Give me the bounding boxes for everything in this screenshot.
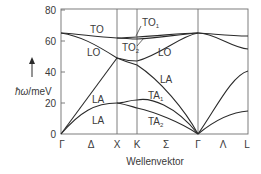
- label-to1: TO1: [142, 17, 160, 29]
- label-lo-left: LO: [87, 47, 101, 58]
- label-ta1: TA1: [148, 90, 164, 102]
- label-la-right: LA: [160, 74, 173, 85]
- x-tick-delta: Δ: [88, 139, 95, 150]
- x-tick-l: L: [244, 139, 250, 150]
- y-axis-ticks: [61, 10, 65, 103]
- x-axis-label: Wellenvektor: [126, 156, 184, 167]
- x-tick-sigma: Σ: [163, 139, 169, 150]
- phonon-dispersion-chart: 80 60 40 20 0 ħω/meV Γ Δ X K Σ Γ Λ L Wel…: [0, 0, 261, 174]
- x-tick-gamma-mid: Γ: [195, 139, 201, 150]
- y-tick-20: 20: [45, 98, 57, 109]
- label-la-upper-left: LA: [92, 94, 105, 105]
- x-tick-gamma-left: Γ: [59, 139, 65, 150]
- x-tick-k: K: [134, 139, 141, 150]
- y-tick-0: 0: [50, 129, 56, 140]
- y-tick-40: 40: [45, 67, 57, 78]
- up-arrow-icon: [29, 57, 35, 77]
- label-to-left: TO: [90, 24, 104, 35]
- label-la-lower-left: LA: [92, 115, 105, 126]
- label-ta2: TA2: [148, 116, 164, 128]
- x-tick-lambda: Λ: [220, 139, 227, 150]
- y-tick-60: 60: [45, 36, 57, 47]
- y-tick-80: 80: [45, 5, 57, 16]
- label-lo-right: LO: [158, 47, 172, 58]
- x-tick-x: X: [114, 139, 121, 150]
- y-axis-label: ħω/meV: [15, 86, 52, 97]
